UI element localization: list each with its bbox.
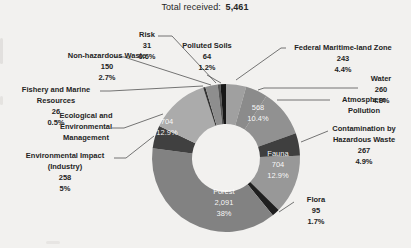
callout-flora: Flora 95 1.7% <box>296 194 336 227</box>
callout-water-label: Water <box>360 73 402 84</box>
callout-ecological-management: Ecological and Environmental Management <box>52 110 120 143</box>
callout-non-hazardous-waste: Non-hazardous Waste 150 2.7% <box>57 50 157 83</box>
slice-label-atmosphere-value: 568 <box>236 102 280 113</box>
scan-artifact <box>46 241 60 244</box>
callout-non-hazardous-waste-pct: 2.7% <box>57 72 157 83</box>
callout-atmosphere-pollution: Atmosphere Pollution <box>332 94 396 116</box>
callout-non-hazardous-waste-label: Non-hazardous Waste <box>57 50 157 61</box>
slice-label-atmosphere-pct: 10.4% <box>236 113 280 124</box>
callout-contamination-value: 267 <box>330 145 398 156</box>
callout-polluted-soils-label: Polluted Soils <box>172 40 242 51</box>
scan-artifact <box>0 38 3 64</box>
leader-fishery <box>100 86 203 91</box>
callout-environmental-impact-pct: 5% <box>14 183 116 194</box>
slice-label-fauna-value: 704 <box>256 159 300 170</box>
leader-water <box>258 88 358 90</box>
callout-polluted-soils-pct: 1.2% <box>172 62 242 73</box>
slice-label-forest: Forest 2,091 38% <box>199 186 249 219</box>
leader-polluted-soils <box>207 75 221 83</box>
callout-fishery-label: Fishery and Marine Resources <box>12 84 100 106</box>
callout-ecological-management-label: Ecological and Environmental Management <box>52 110 120 143</box>
callout-atmosphere-pollution-label: Atmosphere Pollution <box>332 94 396 116</box>
leader-federal-maritime <box>236 48 286 80</box>
slice-label-atmosphere: 568 10.4% <box>236 102 280 124</box>
slice-label-forest-value: 2,091 <box>199 197 249 208</box>
leader-environmental-impact <box>114 136 154 158</box>
callout-contamination: Contamination by Hazardous Waste 267 4.9… <box>330 123 398 167</box>
callout-contamination-label: Contamination by Hazardous Waste <box>330 123 398 145</box>
slice-label-fauna-name: Fauna <box>256 148 300 159</box>
callout-environmental-impact-value: 258 <box>14 172 116 183</box>
slice-label-ecological: 704 12.9% <box>146 116 188 138</box>
scan-artifact <box>0 96 3 105</box>
callout-flora-label: Flora <box>296 194 336 205</box>
leader-contamination <box>301 131 328 142</box>
callout-contamination-pct: 4.9% <box>330 156 398 167</box>
callout-flora-pct: 1.7% <box>296 216 336 227</box>
callout-federal-maritime-label: Federal Maritime-land Zone <box>288 42 398 53</box>
callout-polluted-soils: Polluted Soils 64 1.2% <box>172 40 242 73</box>
callout-polluted-soils-value: 64 <box>172 51 242 62</box>
slice-label-ecological-pct: 12.9% <box>146 127 188 138</box>
donut-chart-figure: Total received: 5,461 Risk 31 0.6% Pollu… <box>0 0 411 248</box>
callout-environmental-impact: Environmental Impact (Industry) 258 5% <box>14 150 116 194</box>
callout-risk-label: Risk <box>127 29 167 40</box>
callout-federal-maritime: Federal Maritime-land Zone 243 4.4% <box>288 42 398 75</box>
callout-non-hazardous-waste-value: 150 <box>57 61 157 72</box>
slice-label-forest-name: Forest <box>199 186 249 197</box>
callout-federal-maritime-value: 243 <box>288 53 398 64</box>
slice-label-fauna: Fauna 704 12.9% <box>256 148 300 181</box>
callout-flora-value: 95 <box>296 205 336 216</box>
callout-environmental-impact-label: Environmental Impact (Industry) <box>14 150 116 172</box>
slice-label-fauna-pct: 12.9% <box>256 170 300 181</box>
slice-label-ecological-value: 704 <box>146 116 188 127</box>
slice-label-forest-pct: 38% <box>199 208 249 219</box>
